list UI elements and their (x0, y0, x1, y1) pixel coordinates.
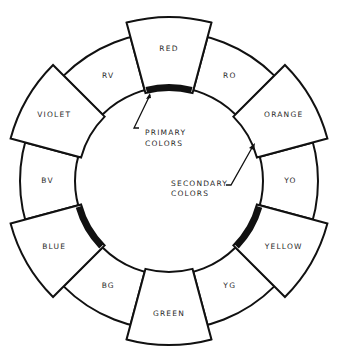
secondary-callout: SECONDARY COLORS (171, 143, 255, 198)
secondary-callout-line2: COLORS (171, 189, 209, 198)
label-yellow: YELLOW (264, 242, 303, 251)
label-green: GREEN (153, 309, 185, 318)
label-orange: ORANGE (264, 110, 303, 119)
primary-callout-line1: PRIMARY (145, 128, 186, 137)
primary-callout-line2: COLORS (145, 139, 183, 148)
primary-marker-red (146, 87, 191, 90)
label-red: RED (159, 44, 178, 53)
secondary-arrow-icon (226, 146, 253, 185)
primary-arrow-icon (134, 95, 150, 128)
color-boxes (11, 17, 328, 345)
label-ro: RO (223, 71, 237, 80)
label-violet: VIOLET (37, 110, 71, 119)
box-red (127, 17, 212, 93)
label-rv: RV (102, 71, 114, 80)
box-green (127, 269, 212, 345)
label-blue: BLUE (42, 242, 66, 251)
primary-arrowhead-icon (146, 93, 151, 99)
color-wheel-diagram: REDROORANGEYOYELLOWYGGREENBGBLUEBVVIOLET… (0, 0, 337, 359)
primary-callout: PRIMARY COLORS (134, 93, 186, 148)
label-bv: BV (41, 176, 53, 185)
secondary-callout-line1: SECONDARY (171, 179, 228, 188)
label-yg: YG (222, 281, 236, 290)
label-yo: YO (283, 176, 296, 185)
label-bg: BG (102, 281, 115, 290)
